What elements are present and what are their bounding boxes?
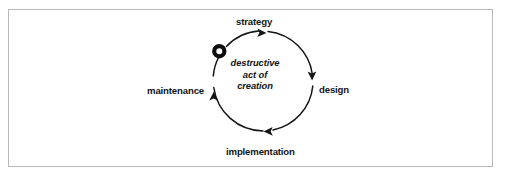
- center-note-line-3: creation: [214, 80, 296, 92]
- arrow-to-strategy-icon: [257, 28, 266, 37]
- arrow-to-maintenance-icon: [209, 92, 218, 101]
- center-note-line-1: destructive: [214, 57, 296, 69]
- arc-implementation-to-maintenance: [214, 88, 263, 131]
- center-note-line-2: act of: [214, 69, 296, 81]
- node-label-implementation: implementation: [226, 146, 295, 157]
- arc-marker-to-strategy: [226, 31, 259, 46]
- ring-marker-icon: [214, 46, 224, 56]
- center-note: destructive act of creation: [214, 57, 296, 92]
- node-label-design: design: [319, 84, 349, 95]
- figure-canvas: strategy design implementation maintenan…: [0, 0, 505, 175]
- node-label-maintenance: maintenance: [147, 85, 204, 96]
- arc-design-to-implementation: [273, 86, 313, 130]
- arrow-to-implementation-icon: [264, 127, 273, 136]
- node-label-strategy: strategy: [236, 16, 272, 27]
